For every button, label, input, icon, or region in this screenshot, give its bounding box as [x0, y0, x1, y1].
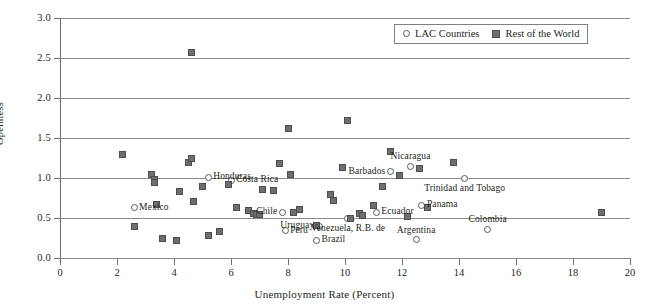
legend-label-rest-of-the-world: Rest of the World: [505, 28, 579, 39]
data-point-row: [233, 204, 240, 211]
data-point-row: [270, 187, 277, 194]
data-point-row: [347, 215, 354, 222]
data-point-lac: [461, 175, 468, 182]
data-point-row: [176, 188, 183, 195]
legend-item-lac-countries: LAC Countries: [403, 28, 479, 39]
data-point-row: [285, 125, 292, 132]
data-point-row: [216, 228, 223, 235]
point-label: Costa Rica: [236, 175, 278, 185]
point-label: Argentina: [397, 226, 436, 236]
data-point-row: [450, 159, 457, 166]
data-point-row: [344, 117, 351, 124]
point-label: Uruguay: [280, 221, 314, 231]
legend-item-rest-of-the-world: Rest of the World: [492, 28, 579, 39]
data-point-row: [188, 155, 195, 162]
point-label: Chile: [256, 207, 277, 217]
data-point-row: [131, 223, 138, 230]
data-point-lac: [131, 204, 138, 211]
y-axis-tick-label: 0.5: [37, 213, 51, 224]
data-point-row: [199, 183, 206, 190]
x-axis-tick-label: 0: [45, 268, 75, 279]
x-axis-tick: [573, 259, 574, 265]
point-label: Venezuela, R.B. de: [311, 224, 385, 234]
data-point-row: [359, 212, 366, 219]
data-point-lac: [387, 168, 394, 175]
y-axis-tick-label: 0.0: [37, 253, 51, 264]
point-label: Nicaragua: [391, 152, 431, 162]
data-point-row: [173, 237, 180, 244]
data-point-row: [330, 197, 337, 204]
data-point-row: [276, 160, 283, 167]
gridline: [60, 58, 630, 59]
x-axis-tick-label: 10: [330, 268, 360, 279]
gridline: [60, 18, 630, 19]
x-axis-tick: [345, 259, 346, 265]
x-axis-title: Unemployment Rate (Percent): [0, 288, 649, 300]
plot-area: MexicoHondurasCosta RicaChilePeruUruguay…: [60, 18, 630, 258]
point-label: Mexico: [139, 203, 169, 213]
data-point-lac: [484, 226, 491, 233]
data-point-row: [379, 183, 386, 190]
gridline: [60, 258, 630, 259]
data-point-row: [339, 164, 346, 171]
x-axis-tick: [288, 259, 289, 265]
x-axis-tick-label: 4: [159, 268, 189, 279]
data-point-row: [225, 181, 232, 188]
data-point-row: [598, 209, 605, 216]
gridline: [60, 178, 630, 179]
x-axis-tick: [231, 259, 232, 265]
data-point-lac: [407, 163, 414, 170]
legend-label-lac-countries: LAC Countries: [415, 28, 479, 39]
scatter-chart-figure: Openness Unemployment Rate (Percent) 0.0…: [0, 0, 649, 308]
y-axis-tick-label: 1.0: [37, 173, 51, 184]
y-axis-tick-label: 3.0: [37, 13, 51, 24]
x-axis-tick-label: 2: [102, 268, 132, 279]
gridline: [60, 138, 630, 139]
point-label: Ecuador: [381, 207, 413, 217]
data-point-row: [396, 172, 403, 179]
data-point-row: [188, 49, 195, 56]
x-axis-tick: [174, 259, 175, 265]
x-axis-tick-label: 16: [501, 268, 531, 279]
data-point-lac: [313, 237, 320, 244]
data-point-row: [370, 202, 377, 209]
x-axis-tick: [60, 259, 61, 265]
y-axis-tick-label: 2.0: [37, 93, 51, 104]
point-label: Brazil: [322, 235, 346, 245]
x-axis-tick-label: 8: [273, 268, 303, 279]
x-axis-tick: [117, 259, 118, 265]
data-point-lac: [373, 209, 380, 216]
data-point-row: [287, 171, 294, 178]
x-axis-tick: [459, 259, 460, 265]
y-axis-tick-label: 2.5: [37, 53, 51, 64]
y-axis-title: Openness: [0, 102, 5, 145]
x-axis-tick-label: 18: [558, 268, 588, 279]
x-axis-tick: [516, 259, 517, 265]
data-point-lac: [279, 209, 286, 216]
filled-square-icon: [492, 30, 500, 38]
data-point-row: [416, 165, 423, 172]
y-axis-tick-label: 1.5: [37, 133, 51, 144]
data-point-row: [259, 186, 266, 193]
x-axis-tick: [630, 259, 631, 265]
x-axis-tick-label: 6: [216, 268, 246, 279]
data-point-row: [119, 151, 126, 158]
point-label: Panama: [427, 200, 458, 210]
chart-legend: LAC Countries Rest of the World: [394, 24, 588, 44]
data-point-lac: [205, 174, 212, 181]
open-circle-icon: [403, 30, 410, 37]
data-point-row: [205, 232, 212, 239]
data-point-row: [151, 179, 158, 186]
data-point-lac: [413, 236, 420, 243]
point-label: Trinidad and Tobago: [424, 184, 505, 194]
x-axis-tick-label: 14: [444, 268, 474, 279]
point-label: Barbados: [349, 167, 386, 177]
x-axis-tick: [402, 259, 403, 265]
x-axis-tick-label: 20: [615, 268, 645, 279]
point-label: Colombia: [469, 215, 507, 225]
data-point-row: [190, 198, 197, 205]
data-point-row: [296, 206, 303, 213]
data-point-row: [159, 235, 166, 242]
x-axis-tick-label: 12: [387, 268, 417, 279]
gridline: [60, 98, 630, 99]
